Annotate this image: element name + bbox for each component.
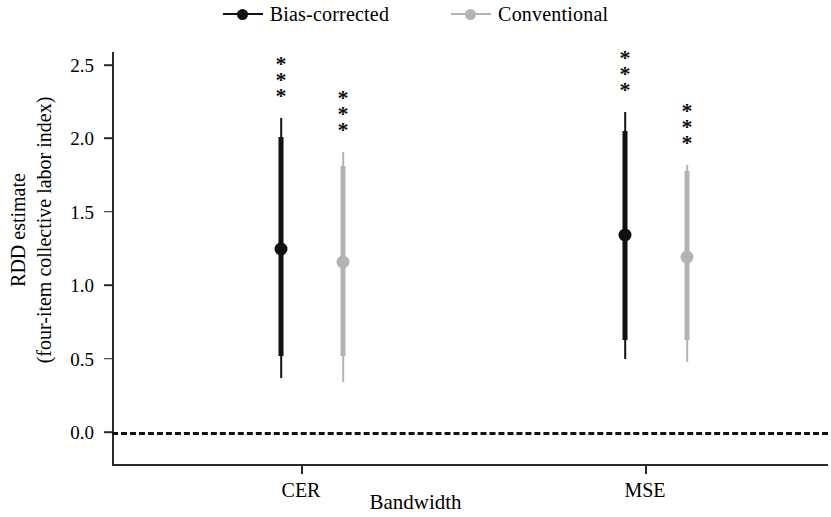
point-estimate-marker (681, 251, 694, 264)
y-axis-tick-mark (104, 211, 113, 213)
x-axis-tick-mark (301, 465, 303, 474)
y-axis-tick-label: 0.0 (48, 423, 94, 442)
y-axis-tick-mark (104, 284, 113, 286)
y-axis-tick-mark (104, 138, 113, 140)
point-estimate-marker (619, 229, 632, 242)
significance-stars: *** (620, 50, 631, 98)
point-estimate-marker (275, 242, 288, 255)
significance-stars: *** (338, 90, 349, 138)
x-axis-tick-mark (645, 465, 647, 474)
x-axis-label: Bandwidth (0, 492, 831, 513)
y-axis-tick-mark (104, 64, 113, 66)
significance-stars: *** (276, 56, 287, 104)
y-axis-tick-label: 2.5 (48, 56, 94, 75)
zero-reference-line (112, 432, 828, 435)
y-axis-tick-label: 1.5 (48, 202, 94, 221)
y-axis-tick-label: 1.0 (48, 276, 94, 295)
rdd-estimate-chart: Bias-corrected Conventional RDD estimate… (0, 0, 831, 517)
y-axis-tick-label: 2.0 (48, 129, 94, 148)
y-axis-tick-label: 0.5 (48, 349, 94, 368)
y-axis-spine (112, 52, 114, 464)
plot-area: 2.52.01.51.00.50.0CERMSE************ (0, 0, 831, 517)
y-axis-tick-mark (104, 358, 113, 360)
point-estimate-marker (337, 255, 350, 268)
significance-stars: *** (682, 103, 693, 151)
x-axis-spine (112, 464, 828, 466)
